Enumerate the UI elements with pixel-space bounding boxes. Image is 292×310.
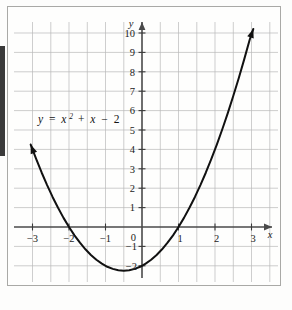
x-tick-label-neg3: −3 (27, 233, 38, 244)
equation-var2: x (89, 113, 96, 125)
equation-plus: + (78, 113, 85, 125)
equation-exponent: 2 (69, 112, 73, 121)
y-tick-label-3: 3 (130, 164, 135, 175)
figure-stage: y x 10 9 8 7 6 5 4 3 2 1 −1 −2 0 −3 −2 −… (0, 0, 292, 310)
y-tick-label-4: 4 (130, 144, 136, 155)
y-axis-arrowhead (139, 22, 146, 30)
y-tick-label-neg2: −2 (126, 261, 137, 272)
y-tick-label-neg1: −1 (126, 241, 137, 252)
grid-horizontal (14, 33, 278, 266)
y-tick-label-5: 5 (130, 125, 135, 136)
x-tick-label-2: 2 (214, 233, 219, 244)
x-tick-label-3: 3 (250, 233, 255, 244)
equation-var: x (60, 113, 67, 125)
origin-label: 0 (131, 232, 136, 243)
x-axis-label: x (267, 229, 273, 240)
y-tick-label-10: 10 (125, 28, 136, 39)
equation-constant: 2 (114, 113, 120, 125)
equation-lhs: y (37, 113, 44, 126)
x-tick-label-neg1: −1 (100, 233, 111, 244)
equation-label: y = x 2 + x − 2 (37, 109, 120, 126)
y-axis (139, 22, 146, 278)
equation-equals: = (49, 113, 56, 125)
y-tick-label-7: 7 (130, 86, 135, 97)
x-tick-label-neg2: −2 (63, 233, 74, 244)
y-tick-label-2: 2 (130, 183, 135, 194)
curve-arrowhead-right (247, 29, 253, 39)
y-tick-label-8: 8 (130, 67, 135, 78)
y-tick-label-9: 9 (130, 47, 135, 58)
y-tick-label-6: 6 (130, 105, 135, 116)
parabola-plot: y x 10 9 8 7 6 5 4 3 2 1 −1 −2 0 −3 −2 −… (0, 0, 292, 310)
y-tick-label-1: 1 (130, 202, 135, 213)
x-tick-label-1: 1 (177, 233, 182, 244)
equation-minus: − (101, 113, 108, 125)
